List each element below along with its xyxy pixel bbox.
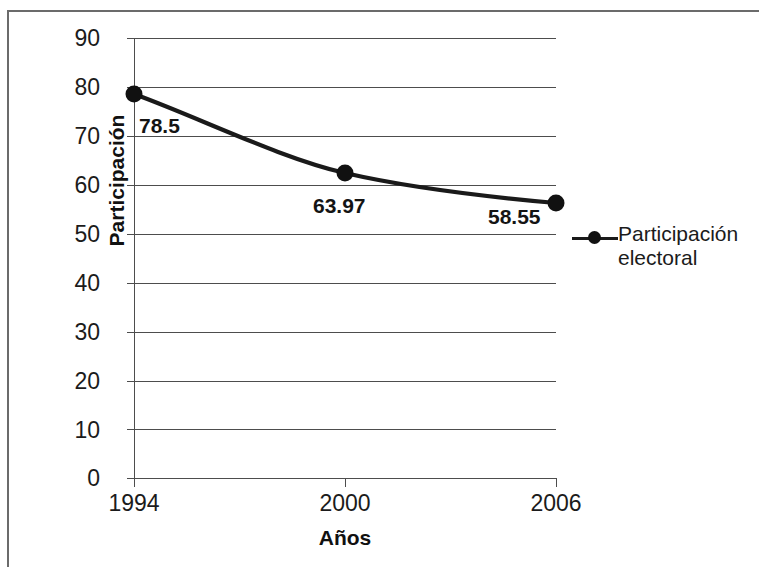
y-tick-label-90: 90 — [56, 27, 100, 50]
y-tick-label-70: 70 — [56, 125, 100, 148]
legend-marker-icon — [572, 224, 618, 252]
y-tick-mark-80 — [127, 87, 134, 88]
x-tick-mark-2006 — [556, 478, 557, 487]
y-tick-label-80: 80 — [56, 76, 100, 99]
legend-item-participacion-electoral: Participación electoral — [572, 222, 757, 270]
y-tick-label-60: 60 — [56, 174, 100, 197]
gridline-60 — [134, 185, 556, 186]
y-tick-mark-90 — [127, 38, 134, 39]
page-border-top — [7, 10, 759, 12]
y-tick-mark-70 — [127, 136, 134, 137]
y-tick-mark-50 — [127, 234, 134, 235]
legend-label: Participación electoral — [618, 222, 738, 270]
gridline-10 — [134, 429, 556, 430]
y-axis-title: Participación — [106, 61, 127, 301]
x-tick-label-2006: 2006 — [501, 492, 611, 515]
page-border-left — [7, 10, 9, 567]
gridline-90 — [134, 38, 556, 39]
y-tick-label-50: 50 — [56, 223, 100, 246]
gridline-70 — [134, 136, 556, 137]
x-axis-title: Años — [275, 527, 415, 548]
legend-dot-icon — [588, 231, 601, 244]
chart-legend: Participación electoral — [572, 222, 757, 270]
gridline-80 — [134, 87, 556, 88]
data-label-2000: 63.97 — [313, 195, 366, 216]
gridline-40 — [134, 283, 556, 284]
legend-label-line1: Participación — [618, 222, 738, 246]
y-tick-label-30: 30 — [56, 321, 100, 344]
data-label-2006: 58.55 — [488, 206, 541, 227]
y-tick-mark-0 — [127, 478, 134, 479]
y-tick-mark-10 — [127, 429, 134, 430]
chart-figure: 90 80 70 60 50 40 30 20 10 0 1994 2000 2… — [0, 0, 759, 567]
y-tick-label-20: 20 — [56, 370, 100, 393]
y-tick-label-0: 0 — [56, 467, 100, 490]
y-tick-mark-60 — [127, 185, 134, 186]
y-tick-label-40: 40 — [56, 272, 100, 295]
axis-y-line — [134, 38, 135, 478]
gridline-20 — [134, 381, 556, 382]
x-tick-label-2000: 2000 — [290, 492, 400, 515]
x-tick-mark-1994 — [134, 478, 135, 487]
y-tick-mark-40 — [127, 283, 134, 284]
x-tick-mark-2000 — [345, 478, 346, 487]
plot-area — [134, 38, 556, 478]
y-tick-mark-30 — [127, 332, 134, 333]
gridline-30 — [134, 332, 556, 333]
x-tick-label-1994: 1994 — [79, 492, 189, 515]
y-tick-label-10: 10 — [56, 419, 100, 442]
gridline-50 — [134, 234, 556, 235]
legend-label-line2: electoral — [618, 246, 738, 270]
y-tick-mark-20 — [127, 381, 134, 382]
data-label-1994: 78.5 — [139, 115, 180, 136]
